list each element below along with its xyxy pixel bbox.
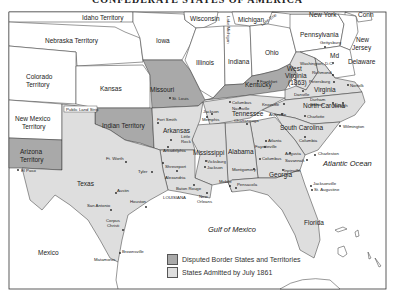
city-pensacola: Pensacola bbox=[237, 182, 258, 187]
legend-label-disputed: Disputed Border States and Territories bbox=[182, 256, 301, 263]
city-asheville: Asheville bbox=[269, 112, 287, 117]
city-st-louis: St. Louis bbox=[172, 96, 189, 101]
city-danville: Danville bbox=[294, 92, 310, 97]
city-columbus-ga: Columbus bbox=[262, 156, 281, 161]
label-iowa: Iowa bbox=[156, 37, 170, 44]
city-houston: Houston bbox=[130, 199, 147, 204]
city-el-paso: El Paso bbox=[21, 168, 36, 173]
label-florida: Florida bbox=[304, 219, 324, 226]
legend-label-admitted: States Admitted by July 1861 bbox=[182, 269, 272, 276]
city-columbus-ky: Columbus bbox=[232, 100, 251, 105]
label-new-mexico-2: Territory bbox=[22, 123, 46, 131]
label-conn: Conn bbox=[358, 11, 374, 18]
label-virginia: Virginia bbox=[314, 86, 336, 94]
map-legend: Disputed Border States and Territories S… bbox=[167, 253, 301, 279]
city-wilmington: Wilmington bbox=[343, 124, 365, 129]
legend-item-admitted: States Admitted by July 1861 bbox=[167, 266, 301, 279]
label-mexico: Mexico bbox=[38, 249, 59, 256]
city-brownsville: Brownsville bbox=[122, 249, 144, 254]
city-alexandria: Alexandria bbox=[165, 175, 186, 180]
city-richmond: Richmond bbox=[312, 70, 332, 75]
city-savannah: Savannah bbox=[285, 158, 305, 163]
city-shreveport: Shreveport bbox=[165, 164, 187, 169]
label-atlantic: Atlantic Ocean bbox=[322, 159, 372, 168]
city-nashville: Nashville bbox=[232, 106, 250, 111]
city-frankfort: Frankfort bbox=[260, 79, 278, 84]
label-arkansas: Arkansas bbox=[163, 127, 191, 134]
label-louisiana: LOUISIANA bbox=[163, 195, 186, 200]
city-little-rock-2: Rock bbox=[181, 139, 192, 144]
city-fayetteville: Fayetteville bbox=[255, 144, 277, 149]
city-irwinville: Irwinville bbox=[284, 168, 301, 173]
label-alabama: Alabama bbox=[228, 148, 254, 155]
city-fort-smith: Fort Smith bbox=[157, 117, 177, 122]
city-chattanooga: Chattanooga bbox=[234, 118, 259, 123]
label-new-jersey-1: New bbox=[356, 36, 369, 43]
legend-swatch-admitted bbox=[167, 267, 178, 278]
label-new-york: New York bbox=[309, 11, 337, 18]
legend-item-disputed: Disputed Border States and Territories bbox=[167, 253, 301, 266]
city-washington: Washington, D.C. bbox=[300, 61, 334, 66]
city-ft-worth: Ft. Worth bbox=[106, 156, 124, 161]
city-norfolk: Norfolk bbox=[350, 83, 364, 88]
city-corpus-2: Christi bbox=[107, 223, 119, 228]
label-new-mexico-1: New Mexico bbox=[15, 115, 51, 122]
label-gulf: Gulf of Mexico bbox=[208, 225, 256, 234]
city-atlanta: Atlanta bbox=[268, 138, 282, 143]
city-knoxville: Knoxville bbox=[262, 102, 280, 107]
city-baton-rouge: Baton Rouge bbox=[176, 186, 202, 191]
label-wv-1: West bbox=[287, 65, 302, 72]
label-arizona-1: Arizona bbox=[20, 148, 42, 155]
city-columbia: Columbia bbox=[299, 138, 318, 143]
city-vicksburg: Vicksburg bbox=[207, 159, 226, 164]
label-md: Md bbox=[330, 52, 339, 59]
city-jackson-tn: Jackson bbox=[203, 109, 219, 114]
label-indiana: Indiana bbox=[228, 58, 250, 65]
label-wisconsin: Wisconsin bbox=[190, 15, 220, 22]
city-charlotte: Charlotte bbox=[307, 114, 325, 119]
label-mississippi: Mississippi bbox=[193, 149, 224, 157]
label-indian: Indian Territory bbox=[102, 122, 146, 130]
label-ohio: Ohio bbox=[265, 49, 279, 56]
city-jacksonville: Jacksonville bbox=[313, 181, 337, 186]
label-delaware: Delaware bbox=[348, 58, 376, 65]
city-memphis: Memphis bbox=[202, 117, 219, 122]
city-arkadelphia: Arkadelphia bbox=[163, 148, 186, 153]
city-jackson-ms: Jackson bbox=[207, 165, 223, 170]
city-tyler: Tyler bbox=[138, 169, 148, 174]
city-austin: Austin bbox=[117, 188, 130, 193]
label-south-carolina: South Carolina bbox=[280, 124, 323, 131]
city-san-antonio: San Antonio bbox=[87, 203, 111, 208]
label-new-jersey-2: Jersey bbox=[352, 44, 372, 52]
city-st-augustine: St. Augustine bbox=[314, 187, 340, 192]
city-augusta: Augusta bbox=[285, 151, 301, 156]
label-colorado-2: Territory bbox=[26, 81, 50, 89]
city-petersburg: Petersburg bbox=[309, 79, 331, 84]
label-nebraska: Nebraska Territory bbox=[45, 37, 99, 45]
label-lake-michigan: Lake Michigan bbox=[226, 16, 231, 44]
legend-swatch-disputed bbox=[167, 254, 178, 265]
label-texas: Texas bbox=[77, 180, 95, 187]
city-raleigh: Raleigh bbox=[333, 103, 348, 108]
city-matamoros: Matamoros bbox=[94, 257, 116, 262]
label-kansas: Kansas bbox=[100, 85, 122, 92]
label-public-land: Public Land Strip bbox=[66, 107, 99, 112]
city-durham-2: Station bbox=[310, 102, 324, 107]
city-montgomery: Montgomery bbox=[232, 167, 257, 172]
label-arizona-2: Territory bbox=[20, 156, 44, 164]
label-wv-3: (1863) bbox=[288, 79, 307, 87]
city-gettysburg: Gettysburg bbox=[320, 40, 342, 45]
label-missouri: Missouri bbox=[150, 86, 174, 93]
label-idaho: Idaho Territory bbox=[82, 14, 124, 22]
label-tennessee: Tennessee bbox=[232, 110, 264, 117]
label-illinois: Illinois bbox=[196, 59, 215, 66]
city-charleston: Charleston bbox=[318, 151, 339, 156]
label-pennsylvania: Pennsylvania bbox=[300, 31, 339, 39]
city-mobile: Mobile bbox=[219, 179, 232, 184]
city-new-orleans-2: Orleans bbox=[197, 199, 212, 204]
label-colorado-1: Colorado bbox=[26, 73, 53, 80]
